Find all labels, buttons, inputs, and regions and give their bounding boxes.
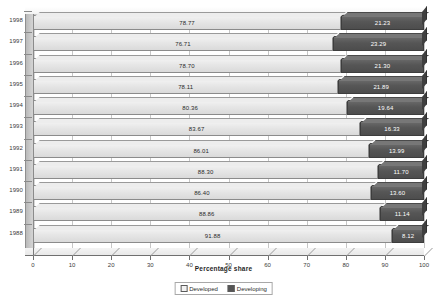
bar-segment-developing[interactable]: 8.12	[392, 228, 424, 243]
x-tick-30	[150, 256, 151, 260]
stacked-bar: 91.888.12	[33, 228, 424, 243]
bar-segment-developing[interactable]: 21.30	[341, 58, 424, 73]
bar-value-label: 16.33	[361, 122, 423, 137]
stacked-bar: 86.0113.99	[33, 143, 424, 158]
bar-segment-developed[interactable]: 80.36	[33, 100, 347, 115]
legend-item-developed[interactable]: Developed	[180, 285, 218, 292]
stacked-bar: 80.3619.64	[33, 100, 424, 115]
category-tick	[24, 117, 32, 118]
bar-value-label: 23.29	[334, 37, 423, 52]
category-tick	[24, 224, 32, 225]
bar-segment-developing[interactable]: 21.89	[338, 79, 424, 94]
category-tick	[24, 139, 32, 140]
bar-segment-developing[interactable]: 16.33	[360, 121, 424, 136]
stacked-bar: 78.1121.89	[33, 79, 424, 94]
bar-row[interactable]: 199188.3011.70	[33, 163, 424, 184]
tick-connector	[424, 248, 441, 256]
bar-row[interactable]: 199286.0113.99	[33, 142, 424, 163]
stacked-bar: 86.4013.60	[33, 185, 424, 200]
category-label: 1990	[0, 187, 23, 193]
developed-swatch-icon	[180, 285, 187, 292]
bar-segment-developed[interactable]: 78.70	[33, 58, 341, 73]
bar-value-label: 21.89	[339, 80, 423, 95]
bar-row[interactable]: 198988.8611.14	[33, 205, 424, 226]
x-tick-40	[189, 256, 190, 260]
x-tick-80	[346, 256, 347, 260]
category-tick	[24, 202, 32, 203]
legend-label-developing: Developing	[237, 286, 267, 292]
stacked-bar: 83.6716.33	[33, 121, 424, 136]
bar-value-label: 88.30	[34, 165, 377, 180]
bar-segment-developed[interactable]: 76.71	[33, 36, 333, 51]
bar-value-label: 76.71	[34, 37, 332, 52]
category-tick	[24, 11, 32, 12]
bar-value-label: 88.86	[34, 207, 379, 222]
stacked-bar: 88.8611.14	[33, 206, 424, 221]
bar-segment-developed[interactable]: 86.40	[33, 185, 371, 200]
developing-swatch-icon	[228, 285, 235, 292]
bar-segment-developing[interactable]: 13.99	[369, 143, 424, 158]
legend-label-developed: Developed	[189, 286, 218, 292]
chart-legend: Developed Developing	[174, 282, 273, 295]
category-label: 1988	[0, 230, 23, 236]
bar-value-label: 13.99	[370, 144, 423, 159]
bar-segment-developing[interactable]: 11.14	[380, 206, 424, 221]
bar-segment-developed[interactable]: 83.67	[33, 121, 360, 136]
stacked-bar: 78.7021.30	[33, 58, 424, 73]
category-tick	[24, 160, 32, 161]
category-tick	[24, 32, 32, 33]
bar-value-label: 78.70	[34, 59, 340, 74]
bar-row[interactable]: 198891.888.12	[33, 227, 424, 248]
bar-segment-developed[interactable]: 78.11	[33, 79, 338, 94]
category-label: 1991	[0, 166, 23, 172]
x-tick-60	[268, 256, 269, 260]
category-tick	[24, 181, 32, 182]
bar-value-label: 11.70	[379, 165, 423, 180]
category-tick	[24, 75, 32, 76]
category-label: 1994	[0, 102, 23, 108]
bar-value-label: 80.36	[34, 101, 346, 116]
bar-value-label: 21.23	[342, 16, 423, 31]
x-tick-10	[72, 256, 73, 260]
x-axis-title: Percentage share	[0, 265, 447, 272]
bar-value-label: 13.60	[372, 186, 423, 201]
bar-segment-developed[interactable]: 78.77	[33, 15, 341, 30]
bar-value-label: 11.14	[381, 207, 423, 222]
bar-value-label: 86.01	[34, 144, 368, 159]
bar-value-label: 19.64	[348, 101, 423, 116]
x-tick-0	[33, 256, 34, 260]
bar-row[interactable]: 199878.7721.23	[33, 14, 424, 35]
category-tick	[24, 54, 32, 55]
category-label: 1997	[0, 38, 23, 44]
bar-value-label: 21.30	[342, 59, 423, 74]
bar-segment-developing[interactable]: 21.23	[341, 15, 424, 30]
legend-item-developing[interactable]: Developing	[228, 285, 267, 292]
bar-value-label: 78.11	[34, 80, 337, 95]
bar-row[interactable]: 199480.3619.64	[33, 99, 424, 120]
bar-value-label: 83.67	[34, 122, 359, 137]
bar-segment-developing[interactable]: 11.70	[378, 164, 424, 179]
bar-segment-developing[interactable]: 19.64	[347, 100, 424, 115]
x-tick-50	[229, 256, 230, 260]
bar-segment-developing[interactable]: 13.60	[371, 185, 424, 200]
bar-row[interactable]: 199678.7021.30	[33, 57, 424, 78]
bar-segment-developed[interactable]: 88.86	[33, 206, 380, 221]
bar-value-label: 8.12	[393, 229, 423, 244]
x-tick-20	[111, 256, 112, 260]
x-tick-90	[385, 256, 386, 260]
bar-segment-developing[interactable]: 23.29	[333, 36, 424, 51]
category-label: 1995	[0, 81, 23, 87]
bar-row[interactable]: 199776.7123.29	[33, 35, 424, 56]
bar-segment-developed[interactable]: 86.01	[33, 143, 369, 158]
bar-value-label: 91.88	[34, 229, 391, 244]
bar-value-label: 86.40	[34, 186, 370, 201]
bar-value-label: 78.77	[34, 16, 340, 31]
plot-area: 199878.7721.23199776.7123.29199678.7021.…	[33, 14, 424, 248]
bar-row[interactable]: 199578.1121.89	[33, 78, 424, 99]
stacked-bar: 88.3011.70	[33, 164, 424, 179]
bar-segment-developed[interactable]: 91.88	[33, 228, 392, 243]
x-tick-100	[424, 256, 425, 260]
category-label: 1989	[0, 208, 23, 214]
bar-segment-developed[interactable]: 88.30	[33, 164, 378, 179]
bar-row[interactable]: 199383.6716.33	[33, 120, 424, 141]
